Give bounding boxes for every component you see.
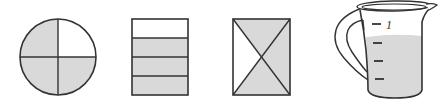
strip-3-shaded <box>132 57 188 76</box>
circle-model <box>20 19 96 95</box>
measuring-pitcher-model: 1 <box>335 0 437 98</box>
fraction-models-figure: 1 <box>0 0 441 104</box>
strip-rectangle-model <box>132 19 188 95</box>
pitcher-spout <box>426 4 437 10</box>
strip-4-shaded <box>132 76 188 95</box>
diagonal-rectangle-model <box>233 19 290 95</box>
strip-top-unshaded <box>132 19 188 38</box>
pitcher-liquid <box>366 35 422 98</box>
graduation-label-one: 1 <box>386 18 392 32</box>
pitcher-handle-outer <box>335 8 368 80</box>
strip-2-shaded <box>132 38 188 57</box>
